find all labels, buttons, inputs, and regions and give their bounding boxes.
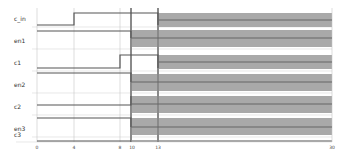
trace-c1 — [37, 55, 158, 68]
signal-label-c1: c1 — [14, 59, 21, 66]
tick-label: 30 — [329, 145, 335, 150]
signal-label-c2: c2 — [14, 103, 21, 110]
signal-label-c_in: c_in — [14, 15, 26, 22]
signal-label-c3: c3 — [14, 131, 21, 138]
trace-en2 — [37, 73, 131, 82]
unknown-regions — [131, 13, 332, 142]
signal-label-en2: en2 — [14, 81, 25, 88]
trace-en3 — [37, 118, 131, 127]
tick-label: 4 — [73, 145, 76, 150]
timing-diagram — [0, 0, 350, 155]
trace-en1 — [37, 31, 131, 38]
tick-label: 0 — [36, 145, 39, 150]
trace-c2 — [37, 96, 131, 105]
tick-label: 8 — [119, 145, 122, 150]
tick-label: 10 — [129, 145, 135, 150]
tick-label: 13 — [155, 145, 161, 150]
signal-label-en1: en1 — [14, 37, 25, 44]
trace-c_in — [37, 13, 158, 25]
